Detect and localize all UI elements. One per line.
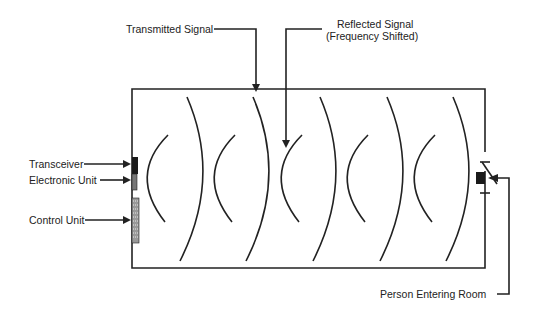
transmitted-arrowhead (252, 84, 260, 92)
control-unit-device (132, 198, 139, 243)
label-reflected-line1: Reflected Signal (326, 18, 418, 30)
transmitted-leader (214, 29, 256, 85)
label-transmitted-signal: Transmitted Signal (126, 23, 213, 35)
person-leader (497, 178, 509, 294)
electronic-arrowhead (123, 176, 131, 184)
room-wall (132, 89, 485, 268)
label-transceiver: Transceiver (29, 158, 83, 170)
reflected-leader (286, 29, 322, 141)
label-reflected-signal: Reflected Signal (Frequency Shifted) (326, 18, 418, 42)
label-person-entering-room: Person Entering Room (380, 288, 486, 300)
person-arrowhead (488, 174, 498, 182)
transceiver-device (132, 157, 138, 174)
reflected-waves (147, 135, 435, 222)
label-control-unit: Control Unit (29, 214, 84, 226)
control-arrowhead (123, 216, 131, 224)
diagram-canvas (0, 0, 536, 310)
person-marker (476, 172, 485, 184)
reflected-arrowhead (282, 140, 290, 148)
transceiver-arrowhead (123, 160, 131, 168)
label-electronic-unit: Electronic Unit (29, 174, 97, 186)
transmitted-waves (180, 97, 469, 261)
electronic-unit-device (132, 174, 137, 190)
label-reflected-line2: (Frequency Shifted) (326, 30, 418, 42)
